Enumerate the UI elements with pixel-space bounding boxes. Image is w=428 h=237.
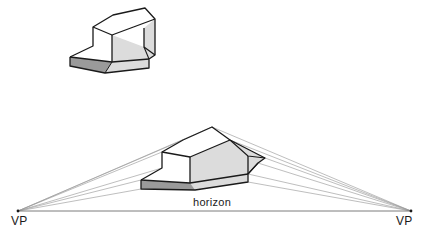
vanishing-point-right-label: VP [396, 214, 413, 228]
right-vp-line-2 [230, 140, 411, 211]
horizon-label: horizon [193, 196, 231, 208]
vanishing-point-left-marker [17, 210, 20, 213]
right-vp-line-6 [248, 182, 411, 211]
right-vp-line-5 [248, 174, 411, 211]
vanishing-point-right-marker [410, 210, 413, 213]
perspective-diagram-canvas: VP VP horizon [0, 0, 428, 237]
bottom-object-group [141, 127, 265, 190]
top-object-group [70, 8, 155, 73]
right-vp-line-3 [265, 158, 411, 211]
vanishing-point-left-label: VP [11, 214, 28, 228]
right-vp-line-4 [258, 163, 411, 211]
bottom-object-left-face [141, 152, 190, 183]
left-vp-line-4 [18, 168, 162, 211]
